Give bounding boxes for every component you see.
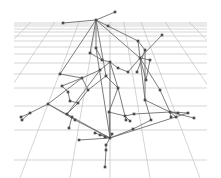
graph-node <box>175 116 178 119</box>
graph-edge <box>105 150 106 167</box>
grid-depth-line <box>0 0 110 178</box>
graph-edge <box>160 90 170 112</box>
graph-node <box>66 113 69 116</box>
graph-node <box>127 71 130 74</box>
graph-edges <box>21 12 194 167</box>
graph-node <box>107 25 110 28</box>
graph-node <box>117 67 120 70</box>
graph-edge <box>60 74 82 78</box>
grid-depth-line <box>0 0 110 178</box>
grid-depth-line <box>110 0 200 178</box>
graph-node <box>81 77 84 80</box>
graph-node <box>133 113 136 116</box>
graph-node <box>132 128 135 131</box>
graph-node <box>170 116 173 119</box>
graph-nodes <box>20 11 196 169</box>
grid-depth-line <box>110 0 221 178</box>
graph-node <box>62 22 65 25</box>
graph-node <box>109 137 112 140</box>
graph-node <box>114 11 117 14</box>
graph-edge <box>63 20 96 23</box>
graph-edge <box>68 92 70 101</box>
graph-node <box>169 111 172 114</box>
graph-node <box>104 136 107 139</box>
graph-edge <box>62 78 82 86</box>
graph-node <box>99 69 102 72</box>
graph-edge <box>69 117 72 128</box>
graph-node <box>187 112 190 115</box>
grid-depth-line <box>110 0 221 178</box>
graph-node <box>117 87 120 90</box>
graph-node <box>193 117 196 120</box>
graph-node <box>125 119 128 122</box>
graph-node <box>144 99 147 102</box>
network-canvas <box>0 0 221 178</box>
graph-edge <box>118 68 128 72</box>
graph-node <box>89 52 92 55</box>
graph-node <box>74 119 77 122</box>
graph-node <box>21 119 24 122</box>
graph-node <box>68 127 71 130</box>
graph-node <box>59 73 62 76</box>
graph-node <box>159 89 162 92</box>
graph-node <box>95 19 98 22</box>
graph-node <box>69 100 72 103</box>
graph-node <box>161 34 164 37</box>
graph-node <box>105 75 108 78</box>
graph-node <box>139 57 142 60</box>
graph-node <box>77 102 80 105</box>
graph-node <box>104 166 107 169</box>
graph-edge <box>134 112 170 114</box>
graph-node <box>109 61 112 64</box>
graph-node <box>47 103 50 106</box>
graph-edge <box>145 100 151 120</box>
graph-edge <box>109 112 125 116</box>
graph-node <box>177 112 180 115</box>
graph-node <box>71 116 74 119</box>
graph-node <box>108 111 111 114</box>
graph-node <box>101 59 104 62</box>
graph-edge <box>96 12 115 20</box>
grid-depth-line <box>0 0 110 178</box>
graph-node <box>111 133 114 136</box>
graph-node <box>129 120 132 123</box>
graph-edge <box>108 26 138 41</box>
graph-edge <box>75 120 110 138</box>
grid-depth-line <box>110 0 221 178</box>
perspective-grid-plane <box>0 0 221 178</box>
graph-node <box>105 144 108 147</box>
grid-depth-line <box>0 0 110 178</box>
graph-edge <box>125 114 134 116</box>
graph-node <box>94 132 97 135</box>
graph-node <box>61 85 64 88</box>
graph-node <box>145 79 148 82</box>
graph-node <box>99 134 102 137</box>
graph-node <box>136 71 139 74</box>
graph-node <box>67 91 70 94</box>
graph-node <box>20 116 23 119</box>
graph-node <box>124 115 127 118</box>
graph-node <box>149 59 152 62</box>
network-diagram <box>0 0 221 178</box>
grid-depth-line <box>110 0 221 178</box>
graph-node <box>87 89 90 92</box>
graph-node <box>137 40 140 43</box>
graph-node <box>78 139 81 142</box>
graph-node <box>144 49 147 52</box>
graph-node <box>105 149 108 152</box>
graph-node <box>95 47 98 50</box>
graph-edge <box>118 88 125 116</box>
graph-node <box>29 112 32 115</box>
graph-node <box>150 119 153 122</box>
graph-edge <box>96 20 106 76</box>
